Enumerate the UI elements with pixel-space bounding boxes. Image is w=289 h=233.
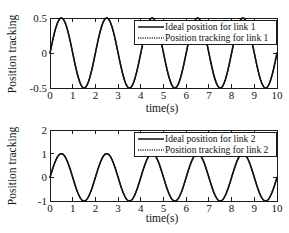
x-tick-label: 9 <box>252 89 258 101</box>
y-tick-label: 0 <box>42 171 48 183</box>
x-tick-label: 9 <box>252 202 258 214</box>
x-tick-label: 2 <box>93 89 99 101</box>
x-tick-label: 7 <box>206 202 212 214</box>
x-tick-label: 10 <box>272 89 284 101</box>
legend-label-tracking: Position tracking for link 1 <box>165 32 269 43</box>
x-tick-label: 2 <box>93 202 99 214</box>
x-tick-label: 6 <box>183 202 189 214</box>
x-tick-label: 0 <box>47 202 53 214</box>
x-tick-label: 7 <box>206 89 212 101</box>
x-tick-label: 8 <box>229 89 235 101</box>
y-tick-label: 0.5 <box>33 12 47 24</box>
y-tick-label: -0.5 <box>30 82 48 94</box>
x-tick-label: 0 <box>47 89 53 101</box>
chart-svg-link-1: 012345678910-0.500.5Ideal position for l… <box>0 0 289 117</box>
x-tick-label: 8 <box>229 202 235 214</box>
x-tick-label: 4 <box>138 202 144 214</box>
chart-svg-link-2: 012345678910-1012Ideal position for link… <box>0 112 289 233</box>
x-tick-label: 5 <box>161 89 167 101</box>
y-tick-label: 2 <box>42 124 48 136</box>
y-axis-label-link-1: Position tracking <box>6 15 19 94</box>
x-tick-label: 3 <box>115 89 121 101</box>
legend-label-ideal: Ideal position for link 2 <box>165 133 256 144</box>
legend-label-ideal: Ideal position for link 1 <box>165 21 256 32</box>
x-tick-label: 6 <box>183 89 189 101</box>
chart-panel-link-1: 012345678910-0.500.5Ideal position for l… <box>0 0 289 117</box>
y-axis-label-link-2: Position tracking <box>6 127 19 206</box>
x-axis-label-link-2: time(s) <box>146 212 179 225</box>
legend-label-tracking: Position tracking for link 2 <box>165 144 269 155</box>
y-tick-label: 1 <box>42 148 48 160</box>
x-tick-label: 1 <box>70 202 76 214</box>
figure-container: 012345678910-0.500.5Ideal position for l… <box>0 0 289 233</box>
x-tick-label: 4 <box>138 89 144 101</box>
x-tick-label: 10 <box>272 202 284 214</box>
y-tick-label: -1 <box>38 195 47 207</box>
x-tick-label: 1 <box>70 89 76 101</box>
y-tick-label: 0 <box>42 47 48 59</box>
x-tick-label: 3 <box>115 202 121 214</box>
chart-panel-link-2: 012345678910-1012Ideal position for link… <box>0 112 289 233</box>
